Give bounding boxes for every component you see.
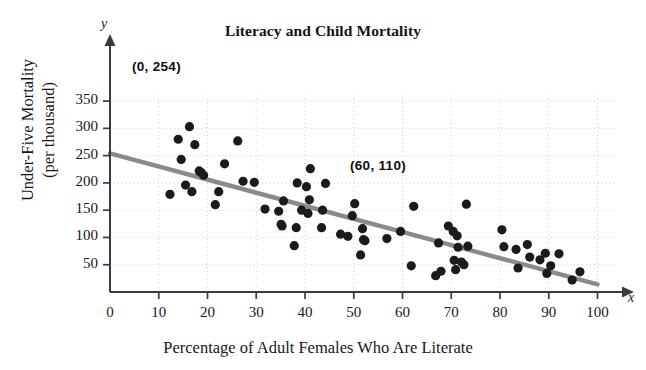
data-point [277,221,286,230]
x-tick-label: 50 [334,304,374,321]
data-point [214,187,223,196]
data-point [303,209,312,218]
annotation-point-1: (60, 110) [347,157,409,174]
data-point [165,190,174,199]
data-point [463,242,472,251]
data-point [407,261,416,270]
x-tick-label: 80 [480,304,520,321]
data-point [211,200,220,209]
y-tick-label: 150 [54,200,98,217]
data-point [525,252,534,261]
data-point [250,178,259,187]
data-point [523,240,532,249]
data-point [177,155,186,164]
data-point [453,231,462,240]
data-point [321,179,330,188]
data-point [434,238,443,247]
data-point [554,249,563,258]
data-point [396,227,405,236]
data-point [238,177,247,186]
data-point [302,182,311,191]
data-point [541,249,550,258]
data-point [187,187,196,196]
data-point [382,234,391,243]
data-point [199,171,208,180]
data-point [318,206,327,215]
x-tick-label: 0 [90,304,130,321]
data-point [459,260,468,269]
data-point [356,250,365,259]
data-point [305,195,314,204]
x-tick-label: 10 [139,304,179,321]
y-tick-label: 250 [54,146,98,163]
data-point [292,223,301,232]
y-tick-label: 100 [54,227,98,244]
data-point [497,225,506,234]
data-point [451,265,460,274]
data-point [348,211,357,220]
data-point [260,204,269,213]
data-point [511,245,520,254]
y-tick-label: 200 [54,173,98,190]
chart-figure: Literacy and Child Mortality y x Under-F… [0,0,646,370]
data-point [462,200,471,209]
data-point [174,135,183,144]
data-point [190,140,199,149]
data-point [453,243,462,252]
data-points [165,122,584,284]
data-point [575,267,584,276]
data-point [274,207,283,216]
x-tick-label: 40 [285,304,325,321]
x-tick-label: 90 [529,304,569,321]
data-point [360,236,369,245]
data-point [343,232,352,241]
data-point [306,164,315,173]
data-point [350,199,359,208]
data-point [317,223,326,232]
annotation-point-0: (0, 254) [129,58,184,75]
x-tick-label: 30 [236,304,276,321]
y-tick-label: 350 [54,91,98,108]
x-tick-label: 60 [383,304,423,321]
x-tick-label: 100 [578,304,618,321]
data-point [358,224,367,233]
data-point [185,122,194,131]
data-point [293,178,302,187]
data-point [290,241,299,250]
x-tick-label: 70 [431,304,471,321]
data-point [409,202,418,211]
data-point [220,159,229,168]
data-point [233,136,242,145]
data-point [513,263,522,272]
data-point [568,275,577,284]
x-tick-label: 20 [188,304,228,321]
data-point [499,242,508,251]
data-point [279,196,288,205]
data-point [436,267,445,276]
y-tick-label: 50 [54,255,98,272]
data-point [546,261,555,270]
y-tick-label: 300 [54,118,98,135]
